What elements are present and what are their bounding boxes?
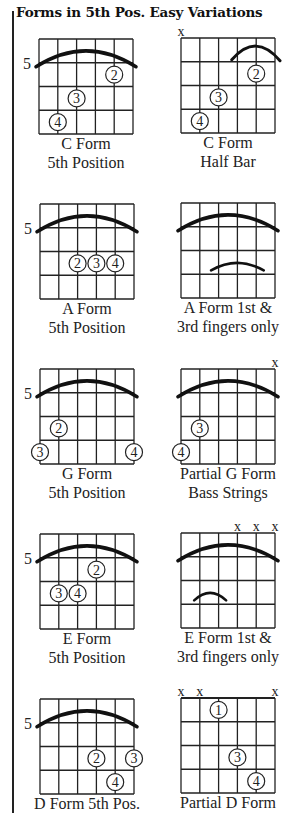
finger-number: 4	[112, 775, 119, 790]
finger-number: 2	[253, 67, 260, 82]
muted-string-x-icon: x	[272, 684, 279, 699]
finger-number: 4	[253, 774, 260, 789]
chord-diagram-partial-g-form: x34	[173, 355, 279, 464]
chord-label-a-form-1st-3rd-line2: 3rd fingers only	[153, 318, 302, 336]
chord-label-d-form-line1: D Form 5th Pos.	[12, 795, 162, 813]
finger-number: 2	[111, 68, 118, 83]
chord-label-partial-d-form-line1: Partial D Form	[153, 794, 302, 812]
chord-diagrams: 5234x23452345234x345234xxx5234xxx134	[0, 0, 302, 813]
chord-label-c-form-line1: C Form	[11, 135, 161, 153]
barre-arc	[36, 51, 136, 67]
chord-label-c-form-half-bar-line1: C Form	[153, 134, 302, 152]
muted-string-x-icon: x	[234, 519, 241, 534]
chord-label-a-form-line2: 5th Position	[12, 319, 162, 337]
barre-arc	[37, 381, 137, 397]
barre-arc	[37, 711, 137, 727]
muted-string-x-icon: x	[272, 519, 279, 534]
chord-label-e-form-1st-3rd-line1: E Form 1st &	[153, 629, 302, 647]
fret-number-label: 5	[23, 55, 31, 72]
chord-label-partial-g-form-line1: Partial G Form	[153, 465, 302, 483]
fret-number-label: 5	[24, 385, 32, 402]
chord-diagram-c-form: 5234	[23, 39, 136, 134]
finger-number: 3	[215, 90, 222, 105]
fret-number-label: 5	[24, 550, 32, 567]
partial-barre-arc	[194, 593, 226, 601]
chord-label-a-form-1st-3rd-line1: A Form 1st &	[153, 299, 302, 317]
finger-number: 4	[196, 114, 203, 129]
finger-number: 4	[131, 445, 138, 460]
finger-number: 3	[93, 256, 100, 271]
muted-string-x-icon: x	[178, 684, 185, 699]
finger-number: 4	[74, 586, 81, 601]
chord-label-c-form-line2: 5th Position	[11, 154, 161, 172]
finger-number: 2	[93, 563, 100, 578]
barre-arc	[178, 381, 278, 397]
finger-number: 3	[37, 445, 44, 460]
fret-number-label: 5	[24, 715, 32, 732]
muted-string-x-icon: x	[272, 355, 279, 370]
finger-number: 3	[131, 751, 138, 766]
chord-diagram-e-form: 5234	[24, 534, 137, 629]
finger-number: 3	[73, 91, 80, 106]
chord-diagram-partial-d-form: xxx134	[178, 684, 279, 793]
chord-label-g-form-line2: 5th Position	[12, 484, 162, 502]
muted-string-x-icon: x	[253, 519, 260, 534]
chord-label-a-form-line1: A Form	[12, 300, 162, 318]
chord-diagram-e-form-1st-3rd: xxx	[178, 519, 279, 628]
chord-diagram-d-form: 5234	[24, 699, 143, 794]
chord-diagram-a-form: 5234	[24, 204, 137, 299]
finger-number: 2	[93, 751, 100, 766]
finger-number: 2	[74, 256, 81, 271]
chord-label-e-form-line2: 5th Position	[12, 649, 162, 667]
muted-string-x-icon: x	[178, 24, 185, 39]
finger-number: 4	[112, 256, 119, 271]
finger-number: 3	[234, 750, 241, 765]
finger-number: 3	[196, 421, 203, 436]
chord-label-partial-g-form-line2: Bass Strings	[153, 484, 302, 502]
fret-number-label: 5	[24, 220, 32, 237]
chord-diagram-a-form-1st-3rd	[178, 203, 278, 298]
finger-number: 2	[55, 421, 62, 436]
muted-string-x-icon: x	[196, 684, 203, 699]
barre-arc	[37, 546, 137, 562]
chord-label-c-form-half-bar-line2: Half Bar	[153, 153, 302, 171]
finger-number: 4	[54, 115, 61, 130]
chord-label-e-form-line1: E Form	[12, 630, 162, 648]
chord-label-e-form-1st-3rd-line2: 3rd fingers only	[153, 648, 302, 666]
barre-arc	[178, 545, 278, 561]
chord-label-g-form-line1: G Form	[12, 465, 162, 483]
barre-arc	[178, 215, 278, 231]
chord-diagram-g-form: 5234	[24, 369, 143, 464]
chord-diagram-c-form-half-bar: x234	[178, 24, 281, 133]
barre-arc	[37, 216, 137, 232]
finger-number: 3	[55, 586, 62, 601]
finger-number: 4	[178, 445, 185, 460]
finger-number: 1	[215, 703, 222, 718]
